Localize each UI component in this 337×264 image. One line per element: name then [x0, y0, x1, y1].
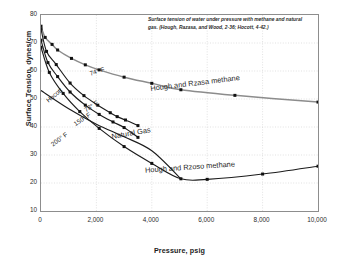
data-point-marker: [46, 61, 49, 64]
data-point-marker: [109, 111, 112, 114]
data-point-marker: [51, 43, 54, 46]
data-point-marker: [116, 115, 119, 118]
data-point-marker: [41, 46, 43, 49]
data-point-marker: [98, 127, 101, 130]
data-point-marker: [56, 49, 59, 52]
x-axis-tick-label: 2,000: [75, 216, 115, 223]
x-axis-tick-label: 0: [20, 216, 60, 223]
data-point-marker: [261, 173, 264, 176]
y-axis-tick-label: 40: [9, 122, 37, 129]
data-point-marker: [55, 63, 58, 66]
plot-area: [40, 14, 319, 212]
x-axis-tick-label: 6,000: [186, 216, 226, 223]
x-axis-title: Pressure, psig: [40, 246, 319, 255]
surface-tension-chart-figure: Surface Tension, dynes/cm Pressure, psig…: [0, 0, 337, 264]
data-point-marker: [123, 145, 126, 148]
y-axis-tick-label: 80: [9, 10, 37, 17]
y-axis-tick-label: 20: [9, 178, 37, 185]
figure-caption: Surface tension of water under pressure …: [148, 16, 306, 31]
x-axis-tick-label: 10,000: [297, 216, 337, 223]
data-point-marker: [45, 50, 48, 53]
data-point-marker: [41, 28, 43, 31]
data-point-marker: [124, 119, 127, 122]
data-point-marker: [56, 75, 59, 78]
y-axis-tick-label: 60: [9, 66, 37, 73]
data-point-marker: [48, 71, 51, 74]
data-point-marker: [233, 94, 236, 97]
data-point-marker: [69, 82, 72, 85]
data-point-marker: [317, 165, 319, 168]
data-point-marker: [70, 57, 73, 60]
data-point-marker: [98, 113, 101, 116]
data-point-marker: [82, 94, 85, 97]
x-axis-tick-label: 4,000: [131, 216, 171, 223]
data-point-marker: [84, 63, 87, 66]
data-point-marker: [112, 120, 115, 123]
y-axis-tick-label: 50: [9, 94, 37, 101]
data-point-marker: [44, 36, 47, 39]
data-point-marker: [69, 91, 72, 94]
data-point-marker: [317, 101, 319, 104]
data-point-marker: [41, 39, 43, 42]
y-axis-title: Surface Tension, dynes/cm: [24, 0, 33, 159]
data-point-marker: [78, 110, 81, 113]
data-point-marker: [206, 178, 209, 181]
y-axis-tick-label: 30: [9, 150, 37, 157]
x-axis-tick-label: 8,000: [242, 216, 282, 223]
data-point-marker: [123, 76, 126, 79]
y-axis-tick-label: 70: [9, 38, 37, 45]
y-axis-tick-label: 10: [9, 206, 37, 213]
data-point-marker: [41, 25, 43, 28]
